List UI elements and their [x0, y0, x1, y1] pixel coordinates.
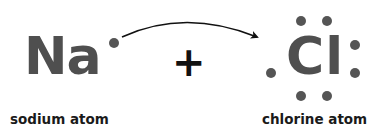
chlorine-valence-electrons [266, 16, 360, 101]
chlorine-electron-left [266, 68, 276, 78]
chlorine-electron-right-top [350, 40, 360, 50]
chlorine-electron-top-right [322, 16, 332, 26]
sodium-valence-electron [109, 38, 119, 48]
chlorine-atom-label: chlorine atom [262, 113, 367, 127]
electron-transfer-arrow-icon [122, 23, 257, 38]
chlorine-electron-bottom-right [322, 91, 332, 101]
chlorine-electron-bottom-left [296, 91, 306, 101]
sodium-atom-label: sodium atom [10, 113, 109, 127]
chlorine-electron-top-left [296, 16, 306, 26]
chlorine-electron-right-bottom [350, 68, 360, 78]
